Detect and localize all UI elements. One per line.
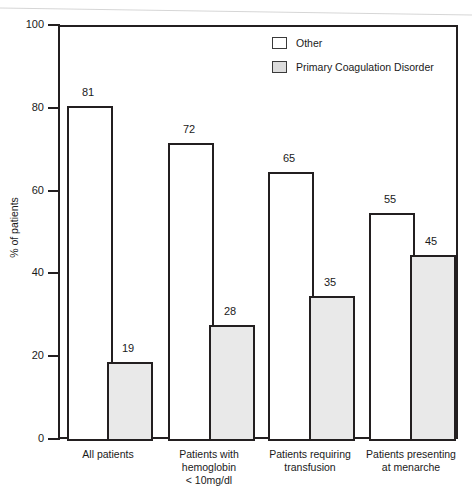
bar-chart: 020406080100 % of patients 8172655519283… bbox=[0, 0, 472, 499]
bar-pcd-group-4[interactable] bbox=[410, 255, 456, 441]
y-axis-title: % of patients bbox=[9, 173, 20, 283]
y-axis-tick-label: 20 bbox=[0, 350, 44, 361]
y-axis-tick-label: 0 bbox=[0, 433, 44, 444]
legend-label-primary-coagulation-disorder: Primary Coagulation Disorder bbox=[296, 61, 434, 73]
legend-item-other[interactable]: Other bbox=[272, 33, 448, 53]
y-axis-tick-label: 80 bbox=[0, 102, 44, 113]
bar-other-group-4[interactable] bbox=[369, 213, 415, 441]
bar-value-label: 28 bbox=[197, 306, 263, 317]
bar-pcd-group-3[interactable] bbox=[309, 296, 355, 441]
x-axis-label-line: Patients presenting bbox=[349, 448, 472, 461]
gray-swatch-icon bbox=[272, 61, 287, 73]
bar-pcd-group-1[interactable] bbox=[107, 362, 153, 441]
bar-other-group-3[interactable] bbox=[268, 172, 314, 441]
legend: Other Primary Coagulation Disorder bbox=[272, 33, 448, 81]
bar-value-label: 19 bbox=[95, 343, 161, 354]
legend-label-other: Other bbox=[296, 37, 322, 49]
bar-pcd-group-2[interactable] bbox=[209, 325, 255, 441]
bar-value-label: 55 bbox=[357, 194, 423, 205]
scan-artifact-line bbox=[0, 6, 472, 16]
y-axis-tick-label: 100 bbox=[0, 19, 44, 30]
bar-value-label: 45 bbox=[398, 236, 464, 247]
y-axis-tick-label: 60 bbox=[0, 185, 44, 196]
bar-value-label: 65 bbox=[256, 153, 322, 164]
bar-value-label: 72 bbox=[156, 124, 222, 135]
bar-value-label: 35 bbox=[297, 277, 363, 288]
x-axis-label-line: at menarche bbox=[349, 461, 472, 474]
white-swatch-icon bbox=[272, 37, 287, 49]
x-axis-label-group-4: Patients presentingat menarche bbox=[349, 448, 472, 474]
y-axis-tick-label: 40 bbox=[0, 267, 44, 278]
legend-item-primary-coagulation-disorder[interactable]: Primary Coagulation Disorder bbox=[272, 57, 448, 77]
bar-value-label: 81 bbox=[55, 87, 121, 98]
bar-other-group-2[interactable] bbox=[168, 143, 214, 441]
x-axis-label-line: < 10mg/dl bbox=[147, 474, 271, 487]
